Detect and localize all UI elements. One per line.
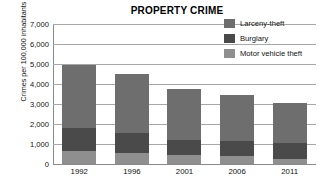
- legend-swatch-icon: [224, 34, 235, 43]
- legend-label: Larceny-theft: [240, 19, 284, 28]
- x-axis-tick-label-2001: 2001: [167, 167, 201, 176]
- bar-group-1996[interactable]: [115, 24, 149, 164]
- bar-segment-larceny-theft[interactable]: [167, 89, 201, 140]
- bar-segment-larceny-theft[interactable]: [115, 74, 149, 133]
- y-axis-tick-label: 3,000: [30, 100, 49, 109]
- bar-stack: [115, 74, 149, 164]
- y-axis-tick-label: 6,000: [30, 40, 49, 49]
- y-axis-title: Crimes per 100,000 inhabitants: [19, 0, 28, 122]
- bar-segment-motor-vehicle-theft[interactable]: [273, 159, 307, 164]
- chart-legend: Larceny-theftBurglaryMotor vehicle theft: [224, 17, 302, 62]
- x-axis-tick-label-2006: 2006: [220, 167, 254, 176]
- bar-group-1992[interactable]: [62, 24, 96, 164]
- gridline: [53, 164, 316, 165]
- bar-segment-motor-vehicle-theft[interactable]: [167, 155, 201, 164]
- legend-label: Motor vehicle theft: [240, 49, 302, 58]
- y-axis-tick-label: 0: [45, 160, 49, 169]
- bar-stack: [273, 103, 307, 164]
- bar-segment-larceny-theft[interactable]: [273, 103, 307, 144]
- x-axis-tick-label-2011: 2011: [273, 167, 307, 176]
- legend-item-larceny-theft[interactable]: Larceny-theft: [224, 17, 302, 30]
- bar-segment-burglary[interactable]: [220, 141, 254, 156]
- y-axis-tick-label: 2,000: [30, 120, 49, 129]
- bar-segment-larceny-theft[interactable]: [220, 95, 254, 141]
- x-axis-tick-labels: 19921996200120062011: [53, 167, 316, 176]
- y-axis-tick-label: 4,000: [30, 80, 49, 89]
- property-crime-chart: PROPERTY CRIME Crimes per 100,000 inhabi…: [0, 0, 332, 193]
- bar-segment-motor-vehicle-theft[interactable]: [220, 156, 254, 164]
- chart-title: PROPERTY CRIME: [0, 5, 332, 16]
- bar-segment-burglary[interactable]: [62, 128, 96, 151]
- bar-segment-burglary[interactable]: [115, 133, 149, 153]
- bar-segment-motor-vehicle-theft[interactable]: [62, 151, 96, 164]
- bar-segment-motor-vehicle-theft[interactable]: [115, 153, 149, 164]
- legend-item-motor-vehicle-theft[interactable]: Motor vehicle theft: [224, 47, 302, 60]
- bar-stack: [167, 89, 201, 164]
- y-axis-tick-label: 7,000: [30, 20, 49, 29]
- x-axis-tick-label-1996: 1996: [115, 167, 149, 176]
- bar-segment-burglary[interactable]: [167, 140, 201, 155]
- y-axis-tick-label: 1,000: [30, 140, 49, 149]
- bar-stack: [220, 95, 254, 164]
- bar-group-2001[interactable]: [167, 24, 201, 164]
- bar-stack: [62, 65, 96, 164]
- legend-label: Burglary: [240, 34, 268, 43]
- x-axis-tick-label-1992: 1992: [62, 167, 96, 176]
- legend-swatch-icon: [224, 49, 235, 58]
- bar-segment-larceny-theft[interactable]: [62, 65, 96, 128]
- bar-segment-burglary[interactable]: [273, 143, 307, 159]
- y-axis-tick-label: 5,000: [30, 60, 49, 69]
- legend-swatch-icon: [224, 19, 235, 28]
- legend-item-burglary[interactable]: Burglary: [224, 32, 302, 45]
